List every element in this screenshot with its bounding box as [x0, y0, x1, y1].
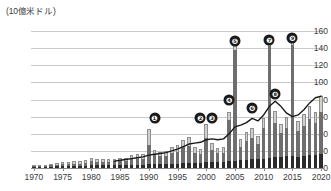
x-tick-label-1970: 1970: [24, 172, 43, 182]
x-tick-label-1985: 1985: [111, 172, 130, 182]
x-tick-mark-1975: [63, 168, 64, 171]
chart-marker-9: ❾: [287, 32, 298, 43]
x-tick-mark-2010: [264, 168, 265, 171]
x-tick-mark-1980: [91, 168, 92, 171]
x-tick-mark-2015: [292, 168, 293, 171]
chart-marker-4: ❹: [224, 94, 235, 105]
chart-marker-7: ❼: [264, 34, 275, 45]
chart-marker-8: ❽: [270, 88, 281, 99]
x-tick-label-2005: 2005: [225, 172, 244, 182]
chart-marker-6: ❻: [247, 103, 258, 114]
x-tick-label-2000: 2000: [197, 172, 216, 182]
x-tick-mark-2020: [321, 168, 322, 171]
y-axis: [0, 0, 30, 191]
chart-marker-5: ❺: [229, 36, 240, 47]
plot-area: ❶❷❸❹❺❻❼❽❾: [31, 31, 324, 168]
x-tick-label-2015: 2015: [283, 172, 302, 182]
x-tick-mark-1970: [34, 168, 35, 171]
x-tick-mark-1985: [120, 168, 121, 171]
trend-line: [114, 96, 321, 161]
trend-line-overlay: [31, 31, 324, 168]
x-tick-mark-2000: [206, 168, 207, 171]
chart-marker-1: ❶: [149, 113, 160, 124]
x-tick-label-2010: 2010: [254, 172, 273, 182]
x-tick-mark-1995: [178, 168, 179, 171]
x-tick-label-1975: 1975: [53, 172, 72, 182]
x-tick-label-1995: 1995: [168, 172, 187, 182]
chart-marker-2: ❷: [195, 113, 206, 124]
x-tick-mark-2005: [235, 168, 236, 171]
x-tick-label-2020: 2020: [312, 172, 331, 182]
x-tick-mark-1990: [149, 168, 150, 171]
chart-marker-3: ❸: [206, 113, 217, 124]
x-tick-label-1990: 1990: [139, 172, 158, 182]
x-tick-label-1980: 1980: [82, 172, 101, 182]
